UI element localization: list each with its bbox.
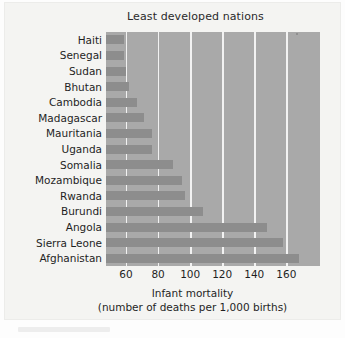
x-axis-tick-label: 120 xyxy=(212,268,232,280)
bar xyxy=(106,176,182,185)
bar xyxy=(106,207,203,216)
x-axis-tick-label: 140 xyxy=(244,268,264,280)
chart-figure: Least developed nations HaitiSenegalSuda… xyxy=(0,0,345,338)
y-axis-label: Sierra Leone xyxy=(0,237,102,249)
y-axis-labels: HaitiSenegalSudanBhutanCambodiaMadagasca… xyxy=(0,32,102,266)
bar xyxy=(106,82,129,91)
y-axis-label: Mauritania xyxy=(0,127,102,139)
bar xyxy=(106,67,126,76)
y-axis-label: Somalia xyxy=(0,159,102,171)
y-axis-label: Mozambique xyxy=(0,174,102,186)
y-axis-label: Burundi xyxy=(0,205,102,217)
bar xyxy=(106,98,137,107)
page-artifact-smudge xyxy=(18,327,110,332)
y-axis-label: Bhutan xyxy=(0,81,102,93)
x-axis-title-line1: Infant mortality xyxy=(0,287,345,299)
page-artifact-dot xyxy=(296,33,298,35)
x-axis-tick-labels: 6080100120140160 xyxy=(0,268,345,284)
y-axis-label: Afghanistan xyxy=(0,252,102,264)
y-axis-label: Angola xyxy=(0,221,102,233)
bar xyxy=(106,113,144,122)
bar xyxy=(106,223,267,232)
bar xyxy=(106,160,173,169)
bar xyxy=(106,238,283,247)
x-axis-tick-label: 60 xyxy=(119,268,132,280)
x-axis-tick-label: 80 xyxy=(151,268,164,280)
y-axis-label: Sudan xyxy=(0,65,102,77)
bar xyxy=(106,191,185,200)
gridline-160 xyxy=(286,32,287,266)
bar xyxy=(106,35,124,44)
plot-area xyxy=(106,32,320,266)
x-axis-title-line2: (number of deaths per 1,000 births) xyxy=(0,301,345,313)
bar xyxy=(106,129,152,138)
y-axis-label: Rwanda xyxy=(0,190,102,202)
x-axis-tick-label: 160 xyxy=(276,268,296,280)
y-axis-label: Senegal xyxy=(0,49,102,61)
y-axis-label: Haiti xyxy=(0,34,102,46)
bar xyxy=(106,254,299,263)
bar xyxy=(106,51,124,60)
x-axis-tick-label: 100 xyxy=(180,268,200,280)
chart-title: Least developed nations xyxy=(0,10,345,23)
bar xyxy=(106,145,152,154)
y-axis-label: Uganda xyxy=(0,143,102,155)
y-axis-label: Cambodia xyxy=(0,96,102,108)
y-axis-label: Madagascar xyxy=(0,112,102,124)
